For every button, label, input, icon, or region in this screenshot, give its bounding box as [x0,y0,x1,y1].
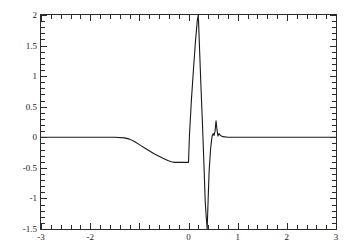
y-tick-label: -0.5 [23,163,37,172]
y-tick [41,150,45,151]
x-tick [149,225,150,229]
y-tick [41,88,45,89]
y-tick [41,21,45,22]
y-tick [332,223,336,224]
y-tick [332,192,336,193]
x-tick [297,225,298,229]
x-tick [139,15,140,21]
y-tick [332,180,336,181]
x-tick-label: -2 [86,233,94,242]
y-tick [332,82,336,83]
x-tick [287,15,288,21]
y-tick-label: 1.5 [26,41,37,50]
y-tick [332,131,336,132]
y-tick [332,113,336,114]
x-tick [208,15,209,19]
x-tick [159,15,160,19]
y-tick [41,101,45,102]
x-tick-label: 0 [186,233,191,242]
y-tick-label: 1 [33,72,38,81]
y-tick [41,15,47,16]
y-tick-label: 0 [33,133,38,142]
y-tick [330,76,336,77]
y-tick-label: 0.5 [26,102,37,111]
y-tick [41,223,45,224]
chart-container: -3-20123 -1.5-1-0.500.511.52 [0,0,348,252]
y-tick [332,94,336,95]
y-tick [332,174,336,175]
y-tick [332,21,336,22]
x-tick [61,15,62,19]
y-tick [332,52,336,53]
x-tick [248,15,249,19]
x-tick [198,15,199,19]
y-tick [332,88,336,89]
x-tick [198,225,199,229]
x-tick [100,225,101,229]
x-tick [110,225,111,229]
y-tick [41,174,45,175]
x-tick [316,225,317,229]
x-tick [287,223,288,229]
y-tick [332,70,336,71]
y-tick [330,137,336,138]
y-tick-label: -1.5 [23,225,37,234]
x-tick [228,225,229,229]
y-tick [330,46,336,47]
y-tick [41,186,45,187]
x-tick [169,15,170,19]
x-tick [277,15,278,19]
y-tick [41,162,45,163]
x-tick [100,15,101,19]
y-tick [332,186,336,187]
x-tick [267,15,268,19]
x-tick [326,15,327,19]
x-tick [257,15,258,19]
y-tick [332,39,336,40]
x-tick [336,223,337,229]
y-tick [41,52,45,53]
y-tick [330,15,336,16]
y-tick-label: 2 [33,11,38,20]
y-tick [332,101,336,102]
x-tick [189,15,190,21]
y-tick [41,46,47,47]
x-tick [110,15,111,19]
y-tick [41,76,47,77]
x-tick [218,225,219,229]
y-tick [332,119,336,120]
x-tick [208,225,209,229]
y-tick [41,58,45,59]
y-tick [332,27,336,28]
y-tick [41,205,45,206]
y-tick [330,168,336,169]
x-tick [257,225,258,229]
y-tick [41,211,45,212]
plot-area [40,14,337,230]
y-tick [332,156,336,157]
y-tick [41,82,45,83]
y-tick [332,58,336,59]
x-tick [238,15,239,21]
x-tick [51,15,52,19]
x-tick [326,225,327,229]
y-tick [41,64,45,65]
x-tick [80,225,81,229]
x-tick-label: -3 [37,233,45,242]
x-tick [159,225,160,229]
x-tick [120,225,121,229]
x-tick [130,225,131,229]
y-tick [330,229,336,230]
y-tick [41,27,45,28]
y-tick [330,198,336,199]
x-tick [297,15,298,19]
x-tick [130,15,131,19]
y-tick [41,192,45,193]
y-tick [41,33,45,34]
x-tick [51,225,52,229]
y-tick [332,143,336,144]
x-tick-label: 1 [235,233,240,242]
y-tick [41,39,45,40]
y-tick [332,125,336,126]
y-tick [41,137,47,138]
